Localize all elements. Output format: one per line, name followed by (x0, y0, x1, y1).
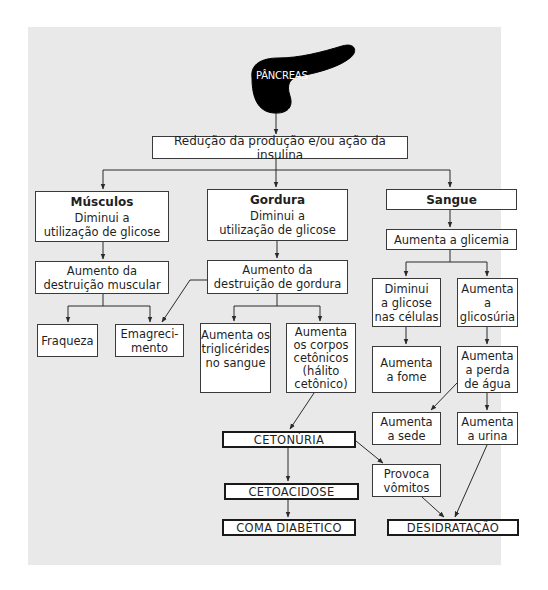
glicemia-label: Aumenta a glicemia (394, 233, 509, 247)
cetoacidose-label: CETOACIDOSE (248, 485, 334, 499)
root-label: Redução da produção e/ou ação da insulin… (153, 134, 407, 162)
corpos-3: cetônicos (294, 352, 349, 365)
vomitos-box: Provoca vômitos (372, 464, 441, 497)
coma-label: COMA DIABÉTICO (236, 521, 342, 535)
glicosuria-2: a (484, 296, 491, 310)
pancreas-label: PÂNCREAS (256, 70, 308, 81)
corpos-cetonicos-box: Aumenta os corpos cetônicos (hálito cetô… (286, 323, 356, 393)
root-box: Redução da produção e/ou ação da insulin… (152, 136, 408, 159)
urina-box: Aumenta a urina (457, 412, 518, 445)
gordura-sub-1: Diminui a (250, 209, 305, 223)
musculos-sub-1: Diminui a (75, 211, 130, 225)
fome-1: Aumenta (380, 356, 432, 370)
glicosuria-box: Aumenta a glicosúria (457, 278, 518, 327)
perda-agua-1: Aumenta (461, 349, 513, 363)
emagrecimento-box: Emagreci- mento (115, 324, 184, 357)
fome-box: Aumenta a fome (372, 346, 441, 393)
coma-box: COMA DIABÉTICO (222, 519, 356, 536)
triglicerides-1: Aumenta os (201, 328, 270, 342)
musculos-title: Músculos (71, 195, 134, 209)
cetonuria-box: CETONÚRIA (222, 431, 356, 448)
fome-2: a fome (386, 370, 426, 384)
sede-box: Aumenta a sede (372, 412, 441, 445)
diminui-glicose-2: a glicose (381, 296, 432, 310)
gordura-sub-2: utilização de glicose (219, 223, 336, 237)
destruicao-gordura-1: Aumento da (242, 263, 312, 277)
perda-agua-box: Aumenta a perda de água (457, 346, 518, 393)
destruicao-gordura-box: Aumento da destruição de gordura (207, 260, 348, 294)
cetonuria-label: CETONÚRIA (254, 433, 324, 447)
sangue-box: Sangue (386, 189, 517, 210)
glicemia-box: Aumenta a glicemia (386, 229, 517, 250)
sede-2: a sede (387, 429, 425, 443)
gordura-box: Gordura Diminui a utilização de glicose (207, 189, 348, 241)
corpos-5: cetônico) (294, 378, 347, 391)
vomitos-1: Provoca (384, 467, 429, 481)
triglicerides-3: no sangue (206, 356, 266, 370)
destruicao-muscular-box: Aumento da destruição muscular (35, 261, 169, 294)
sangue-title: Sangue (426, 193, 477, 207)
perda-agua-3: de água (464, 377, 511, 391)
destruicao-muscular-2: destruição muscular (43, 278, 160, 292)
musculos-box: Músculos Diminui a utilização de glicose (35, 191, 169, 242)
perda-agua-2: a perda (466, 363, 510, 377)
sede-1: Aumenta (380, 415, 432, 429)
musculos-sub-2: utilização de glicose (44, 225, 161, 239)
glicosuria-3: glicosúria (460, 310, 515, 324)
glicosuria-1: Aumenta (461, 282, 513, 296)
corpos-2: os corpos (293, 339, 348, 352)
fraqueza-box: Fraqueza (37, 324, 98, 357)
diminui-glicose-3: nas células (374, 310, 438, 324)
emagrecimento-2: mento (131, 341, 168, 355)
desidratacao-label: DESIDRATAÇÃO (407, 521, 499, 535)
cetoacidose-box: CETOACIDOSE (224, 483, 359, 500)
urina-2: a urina (467, 429, 507, 443)
diminui-glicose-box: Diminui a glicose nas células (372, 278, 441, 327)
destruicao-gordura-2: destruição de gordura (214, 277, 341, 291)
vomitos-2: vômitos (384, 481, 430, 495)
corpos-4: (hálito (303, 365, 340, 378)
fraqueza-label: Fraqueza (41, 334, 93, 348)
desidratacao-box: DESIDRATAÇÃO (387, 519, 519, 536)
gordura-title: Gordura (250, 193, 305, 207)
triglicerides-2: triglicérides (202, 342, 270, 356)
diminui-glicose-1: Diminui (384, 282, 428, 296)
emagrecimento-1: Emagreci- (120, 327, 178, 341)
destruicao-muscular-1: Aumento da (67, 264, 137, 278)
corpos-1: Aumenta (295, 326, 347, 339)
urina-1: Aumenta (461, 415, 513, 429)
triglicerides-box: Aumenta os triglicérides no sangue (200, 323, 271, 393)
